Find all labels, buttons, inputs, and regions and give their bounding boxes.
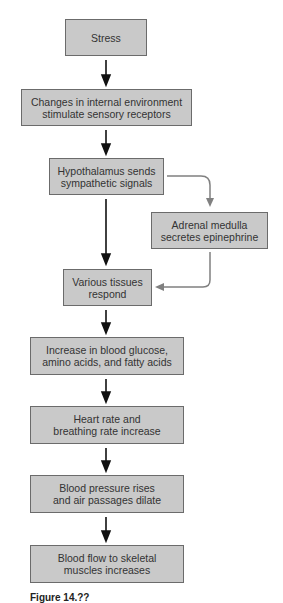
node-label: Adrenal medulla secretes epinephrine bbox=[161, 219, 258, 243]
node-label: Various tissues respond bbox=[72, 276, 142, 300]
node-label: Heart rate and breathing rate increase bbox=[53, 413, 160, 437]
figure-label: Figure 14.?? bbox=[30, 592, 89, 603]
node-bloodflow: Blood flow to skeletal muscles increases bbox=[30, 545, 184, 583]
node-label: Changes in internal environment stimulat… bbox=[31, 96, 182, 120]
node-adrenal: Adrenal medulla secretes epinephrine bbox=[151, 212, 268, 249]
node-label: Hypothalamus sends sympathetic signals bbox=[57, 165, 155, 189]
node-tissues: Various tissues respond bbox=[63, 269, 152, 306]
node-stress: Stress bbox=[65, 19, 147, 56]
node-pressure: Blood pressure rises and air passages di… bbox=[30, 475, 184, 513]
node-changes: Changes in internal environment stimulat… bbox=[21, 89, 192, 126]
node-label: Blood flow to skeletal muscles increases bbox=[58, 552, 157, 576]
node-label: Blood pressure rises and air passages di… bbox=[53, 482, 161, 506]
node-label: Stress bbox=[91, 32, 121, 44]
node-heart: Heart rate and breathing rate increase bbox=[30, 406, 184, 444]
node-label: Increase in blood glucose, amino acids, … bbox=[42, 344, 172, 368]
node-glucose: Increase in blood glucose, amino acids, … bbox=[30, 337, 184, 375]
node-hypothalamus: Hypothalamus sends sympathetic signals bbox=[49, 158, 164, 195]
